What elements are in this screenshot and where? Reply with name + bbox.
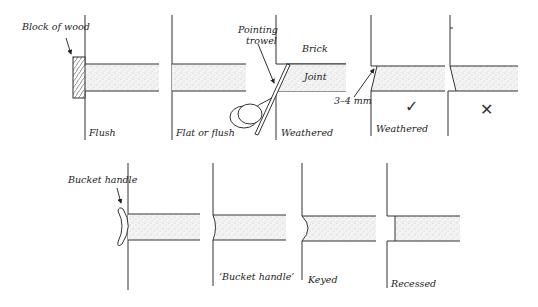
- bucket-handle-caption: ‘Bucket handle’: [219, 272, 294, 282]
- bucket-handle-icon: [118, 208, 128, 246]
- weathered-correct-joint: [354, 15, 445, 136]
- joint-label: Joint: [304, 72, 327, 82]
- flush-caption: Flush: [89, 128, 116, 138]
- trowel-icon: [255, 64, 290, 135]
- dimension-label: 3–4 mm: [334, 96, 372, 106]
- recessed-joint: [387, 163, 460, 288]
- weathered-caption: Weathered: [281, 128, 333, 138]
- keyed-caption: Keyed: [308, 275, 338, 285]
- recessed-caption: Recessed: [391, 279, 436, 289]
- checkmark-icon: ✓: [405, 99, 418, 115]
- bucket-handle-label: Bucket handle: [68, 175, 137, 185]
- bucket-handle-joint: [213, 163, 286, 286]
- flat-flush-caption: Flat or flush: [176, 128, 235, 138]
- pointing-trowel-label-2: trowel: [246, 36, 277, 46]
- cross-icon: ✕: [480, 102, 493, 118]
- flush-joint: [66, 15, 159, 140]
- weathered-correct-caption: Weathered: [376, 124, 428, 134]
- joint-diagram: [0, 0, 538, 307]
- brick-label: Brick: [302, 44, 328, 54]
- pointing-trowel-label: Pointing: [238, 25, 278, 35]
- keyed-joint: [302, 163, 376, 280]
- wood-block-icon: [73, 57, 85, 98]
- block-of-wood-label: Block of wood: [22, 22, 90, 32]
